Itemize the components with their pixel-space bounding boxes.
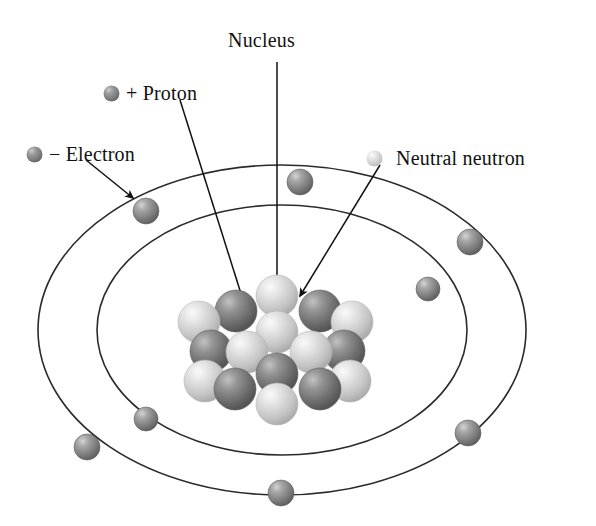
electron-particle <box>455 420 481 446</box>
electron-particle <box>457 229 483 255</box>
proton-swatch-icon <box>103 85 120 102</box>
atom-diagram: Nucleus + Proton − Electron Neutral neut… <box>0 0 596 526</box>
electron-particle <box>287 169 313 195</box>
label-neutron: Neutral neutron <box>396 148 525 168</box>
electron-particle <box>416 277 440 301</box>
electron-swatch-icon <box>26 146 43 163</box>
electron-particle <box>134 407 158 431</box>
neutron-particle <box>256 383 298 425</box>
electron-particle <box>74 434 100 460</box>
nucleus-cluster <box>178 275 373 425</box>
atom-diagram-canvas <box>0 0 596 526</box>
electron-particle <box>268 480 294 506</box>
neutron-swatch-icon <box>366 150 383 167</box>
electron-particle <box>133 198 159 224</box>
label-proton: + Proton <box>126 83 197 103</box>
proton-pointer <box>180 100 243 300</box>
label-electron: − Electron <box>49 144 135 164</box>
proton-particle <box>299 368 341 410</box>
electron-pointer <box>86 160 133 198</box>
proton-particle <box>215 290 257 332</box>
proton-particle <box>214 368 256 410</box>
label-nucleus: Nucleus <box>228 30 295 50</box>
